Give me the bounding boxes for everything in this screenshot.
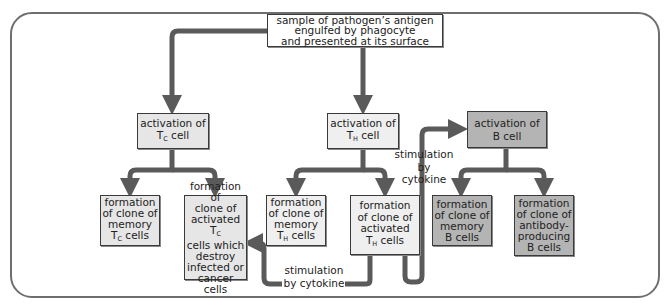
b-memory-line2: of clone of [434,210,489,221]
th-memory-line2: of clone of [268,208,323,219]
th-activation-cell: TH cell [347,129,380,146]
arrow-b-to-memory [461,147,506,188]
tc-activated-line1: formation of [185,181,246,203]
tc-activated-line7: cancer cells [185,273,246,295]
stimulation-label-upper: stimulation by cytokine [394,148,454,186]
tc-activated-line5: destroy [196,251,235,262]
arrow-b-to-antibody [506,170,544,188]
th-memory-cell: TH cells [277,230,315,245]
tc-memory-clone-box: formation of clone of memory TC cells [100,195,160,246]
arrow-tc-to-memory [130,148,172,188]
stim-lower-line2: by cytokine [283,277,345,290]
b-activation-line1: activation of [474,117,539,130]
tc-activated-clone-box: formation of clone of activated TC cells… [184,195,247,280]
th-activation-box: activation of TH cell [327,113,399,149]
arrow-th-to-memory [296,148,363,188]
b-activation-line2: B cell [493,130,522,143]
th-activation-text: activation of [330,117,395,130]
stim-lower-line1: stimulation [283,264,345,277]
th-memory-line1: formation [270,197,321,208]
tc-activation-cell: TC cell [157,129,189,146]
b-memory-clone-box: formation of clone of memory B cells [432,195,492,246]
tc-activation-text: activation of [140,117,205,130]
arrow-th-to-activated [363,170,385,188]
tc-activated-line4: cells which [187,240,244,251]
b-antibody-clone-box: formation of clone of antibody- producin… [514,195,574,256]
tc-memory-line1: formation [104,197,155,208]
tc-memory-line2: of clone of [102,208,157,219]
stim-upper-line1: stimulation [394,148,454,161]
stimulation-label-lower: stimulation by cytokine [283,264,345,289]
b-memory-line3: memory [440,221,484,232]
b-antibody-line5: B cells [527,242,561,253]
th-activated-line1: formation [359,200,410,212]
antigen-presentation-box: sample of pathogen’s antigen engulfed by… [267,14,443,47]
b-memory-line1: formation [436,199,487,210]
b-activation-box: activation of B cell [467,111,547,148]
th-memory-clone-box: formation of clone of memory TH cells [266,195,326,246]
arrow-th-activated-to-tc [344,255,370,284]
th-activated-cell: TH cells [366,235,404,251]
tc-activated-line6: infected or [187,262,244,273]
tc-memory-cell: TC cells [111,230,149,245]
arrow-antigen-to-tc [172,31,267,105]
tc-activated-line3: activated TC [185,214,246,240]
antigen-line3: and presented at its surface [281,36,429,47]
th-activated-clone-box: formation of clone of activated TH cells [350,195,420,255]
tc-activation-box: activation of TC cell [137,113,209,149]
b-memory-line4: B cells [445,232,479,243]
stim-upper-line2: by cytokine [394,161,454,186]
